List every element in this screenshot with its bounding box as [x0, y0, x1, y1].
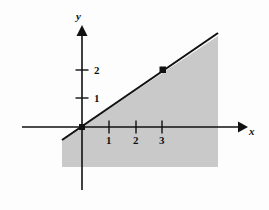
y-axis-arrowhead-icon: [77, 25, 88, 36]
coordinate-plane-plot: [0, 0, 269, 210]
x-tick-label-3: 3: [159, 135, 165, 146]
x-tick-label-2: 2: [133, 135, 139, 146]
x-tick-label-1: 1: [106, 135, 112, 146]
figure-canvas: x y 1 2 3 1 2: [0, 0, 269, 210]
y-tick-label-1: 1: [94, 93, 100, 104]
y-tick-label-2: 2: [94, 65, 100, 76]
point-marker-origin: [79, 124, 85, 130]
x-axis-label: x: [249, 126, 255, 137]
x-axis-arrowhead-icon: [238, 122, 248, 133]
y-axis-label: y: [76, 11, 81, 22]
shaded-region-below-line: [62, 36, 218, 167]
point-marker-3-2: [160, 67, 167, 74]
